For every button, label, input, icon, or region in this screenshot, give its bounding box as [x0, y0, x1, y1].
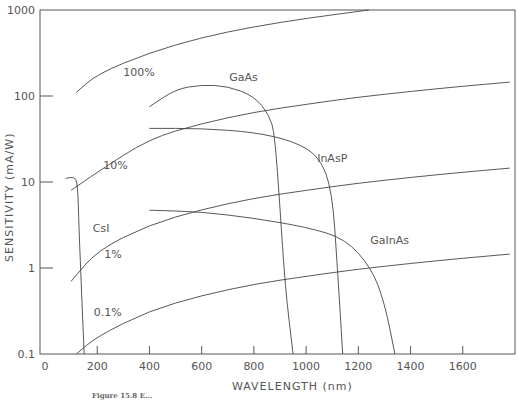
y-tick-label: 1	[28, 262, 35, 275]
x-tick-label: 0	[42, 360, 49, 373]
x-tick-label: 400	[139, 360, 160, 373]
series-csi	[66, 177, 84, 354]
x-tick-label: 200	[87, 360, 108, 373]
series-lines	[66, 10, 510, 354]
curve-labels: 100%10%1%0.1%CsIGaAsInAsPGaInAs	[93, 66, 409, 318]
curve-label: 10%	[103, 159, 127, 172]
curve-label: CsI	[93, 222, 110, 235]
plot-border	[40, 10, 515, 354]
series-0-1pct	[76, 254, 510, 354]
y-tick-label: 1000	[7, 4, 35, 17]
figure-caption: Figure 15.8 E...	[92, 391, 152, 400]
y-tick-label: 0.1	[18, 348, 36, 361]
series-100pct	[76, 10, 369, 92]
y-tick-label: 100	[14, 90, 35, 103]
x-tick-label: 800	[243, 360, 264, 373]
curve-label: 1%	[104, 248, 121, 261]
series-gaas	[149, 85, 293, 354]
x-tick-label: 1400	[397, 360, 425, 373]
curve-label: InAsP	[317, 152, 347, 165]
y-tick-label: 10	[21, 176, 35, 189]
y-axis-title: SENSITIVITY (mA/W)	[3, 133, 16, 262]
series-gainas	[149, 210, 395, 354]
plot-frame	[40, 10, 515, 354]
x-tick-label: 600	[191, 360, 212, 373]
x-tick-label: 1200	[344, 360, 372, 373]
curve-label: 0.1%	[94, 306, 122, 319]
curve-label: 100%	[123, 66, 154, 79]
x-axis-title: WAVELENGTH (nm)	[232, 380, 353, 393]
x-tick-label: 1000	[292, 360, 320, 373]
curve-label: GaInAs	[370, 234, 409, 247]
curve-label: GaAs	[229, 71, 258, 84]
sensitivity-chart: 020040060080010001200140016000.111010010…	[0, 0, 518, 404]
series-inasp	[149, 128, 342, 354]
x-tick-label: 1600	[449, 360, 477, 373]
